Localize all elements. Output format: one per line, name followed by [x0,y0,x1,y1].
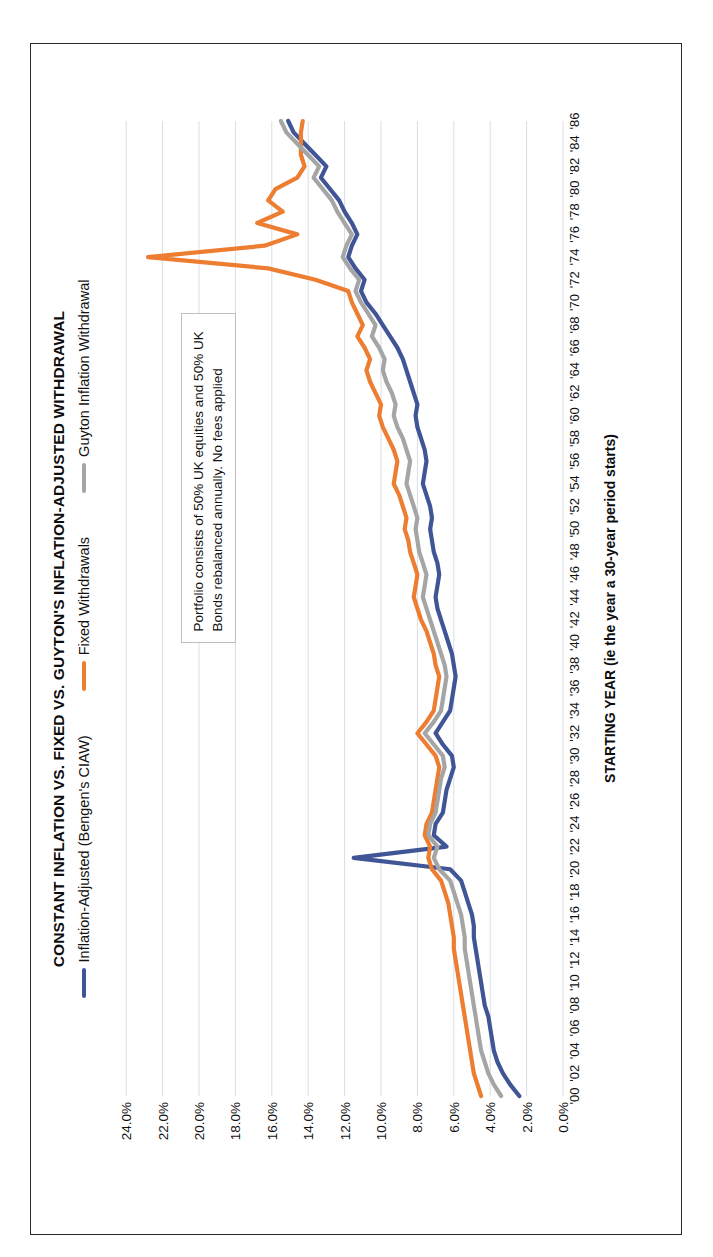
y-tick-label: 4.0% [483,1102,498,1133]
x-axis-tick-labels: '00'02'04'06'08'10'12'14'16'18'20'22'24'… [567,121,597,1096]
y-tick-label: 20.0% [192,1102,207,1140]
y-tick-label: 24.0% [119,1102,134,1140]
x-tick-label: '60 [567,407,582,424]
x-tick-label: '16 [567,906,582,923]
x-tick-label: '34 [567,702,582,719]
x-tick-label: '44 [567,589,582,606]
x-tick-label: '28 [567,770,582,787]
x-tick-label: '84 [567,135,582,152]
x-tick-label: '54 [567,475,582,492]
x-tick-label: '50 [567,521,582,538]
x-tick-label: '38 [567,657,582,674]
legend-label-guyton: Guyton Inflation Withdrawal [76,280,92,457]
legend-swatch-inflation-adjusted [82,968,87,998]
chart-title: CONSTANT INFLATION VS. FIXED VS. GUYTON'… [50,64,68,1214]
x-tick-label: '56 [567,453,582,470]
x-tick-label: '18 [567,883,582,900]
chart-frame: CONSTANT INFLATION VS. FIXED VS. GUYTON'… [30,43,682,1235]
legend-item-inflation-adjusted[interactable]: Inflation-Adjusted (Bengen's CIAW) [76,735,92,998]
legend-label-inflation-adjusted: Inflation-Adjusted (Bengen's CIAW) [76,735,92,962]
x-tick-label: '72 [567,271,582,288]
legend-swatch-guyton [82,463,87,493]
legend-item-guyton[interactable]: Guyton Inflation Withdrawal [76,280,92,493]
rotated-chart-canvas: CONSTANT INFLATION VS. FIXED VS. GUYTON'… [46,64,666,1214]
x-tick-label: '64 [567,362,582,379]
x-tick-label: '70 [567,294,582,311]
x-tick-label: '10 [567,974,582,991]
x-tick-label: '06 [567,1020,582,1037]
x-tick-label: '68 [567,317,582,334]
x-tick-label: '40 [567,634,582,651]
y-tick-label: 14.0% [301,1102,316,1140]
x-tick-label: '74 [567,249,582,266]
plot-area [108,121,563,1096]
y-tick-label: 16.0% [264,1102,279,1140]
x-tick-label: '12 [567,951,582,968]
y-tick-label: 2.0% [519,1102,534,1133]
x-tick-label: '52 [567,498,582,515]
y-tick-label: 22.0% [155,1102,170,1140]
legend-swatch-fixed-withdrawals [82,661,87,691]
x-tick-label: '20 [567,861,582,878]
x-tick-label: '22 [567,838,582,855]
y-axis-tick-labels: 0.0%2.0%4.0%6.0%8.0%10.0%12.0%14.0%16.0%… [108,1102,563,1214]
x-tick-label: '02 [567,1065,582,1082]
y-tick-label: 8.0% [410,1102,425,1133]
y-tick-label: 0.0% [556,1102,571,1133]
x-tick-label: '78 [567,203,582,220]
x-tick-label: '62 [567,385,582,402]
series-line [288,121,519,1096]
x-tick-label: '00 [567,1088,582,1105]
x-tick-label: '04 [567,1042,582,1059]
x-tick-label: '66 [567,339,582,356]
x-tick-label: '24 [567,815,582,832]
x-tick-label: '32 [567,725,582,742]
chart-legend: Inflation-Adjusted (Bengen's CIAW) Fixed… [76,64,92,1214]
x-tick-label: '48 [567,543,582,560]
legend-item-fixed-withdrawals[interactable]: Fixed Withdrawals [76,537,92,691]
y-tick-label: 12.0% [337,1102,352,1140]
series-line [281,121,501,1096]
x-tick-label: '58 [567,430,582,447]
y-tick-label: 18.0% [228,1102,243,1140]
x-tick-label: '26 [567,793,582,810]
x-tick-label: '82 [567,158,582,175]
x-tick-label: '42 [567,611,582,628]
annotation-box: Portfolio consists of 50% UK equities an… [181,313,236,643]
x-tick-label: '80 [567,181,582,198]
chart-svg [108,121,563,1096]
x-tick-label: '14 [567,929,582,946]
x-tick-label: '76 [567,226,582,243]
x-axis-title: STARTING YEAR (ie the year a 30-year per… [602,121,618,1096]
y-tick-label: 6.0% [446,1102,461,1133]
x-tick-label: '46 [567,566,582,583]
legend-label-fixed-withdrawals: Fixed Withdrawals [76,537,92,655]
x-tick-label: '86 [567,113,582,130]
x-tick-label: '36 [567,679,582,696]
y-tick-label: 10.0% [374,1102,389,1140]
x-tick-label: '30 [567,747,582,764]
x-tick-label: '08 [567,997,582,1014]
